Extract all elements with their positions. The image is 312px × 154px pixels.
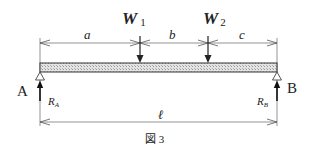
support-b: B RB [256, 72, 297, 109]
dimension-c-label: c [239, 27, 245, 42]
svg-text:W2: W2 [203, 9, 226, 28]
dimension-b: b [140, 27, 208, 43]
support-a-triangle-icon [36, 72, 45, 80]
figure-caption: 図 3 [145, 133, 165, 145]
beam [40, 63, 277, 72]
svg-text:W1: W1 [122, 9, 146, 28]
reaction-b-sub: B [264, 101, 269, 109]
load-w1-sub: 1 [140, 16, 146, 28]
beam-diagram: a b c W1 W2 A RA [0, 0, 312, 154]
load-w2: W2 [203, 9, 226, 63]
dimension-length: ℓ [40, 107, 277, 122]
svg-text:RA: RA [47, 95, 60, 109]
dimension-length-label: ℓ [158, 107, 164, 122]
support-a: A RA [17, 72, 60, 109]
dimension-a-label: a [84, 27, 91, 42]
dimension-c: c [208, 27, 277, 43]
reaction-a-sub: A [54, 101, 60, 109]
support-b-label: B [287, 80, 297, 96]
load-w2-sub: 2 [220, 16, 226, 28]
support-b-triangle-icon [273, 72, 282, 80]
load-w2-name: W [203, 9, 220, 28]
load-w1: W1 [122, 9, 146, 63]
dimension-a: a [40, 27, 140, 43]
svg-text:RB: RB [256, 95, 269, 109]
support-a-label: A [17, 83, 28, 99]
load-w1-name: W [122, 9, 139, 28]
dimension-b-label: b [169, 27, 176, 42]
